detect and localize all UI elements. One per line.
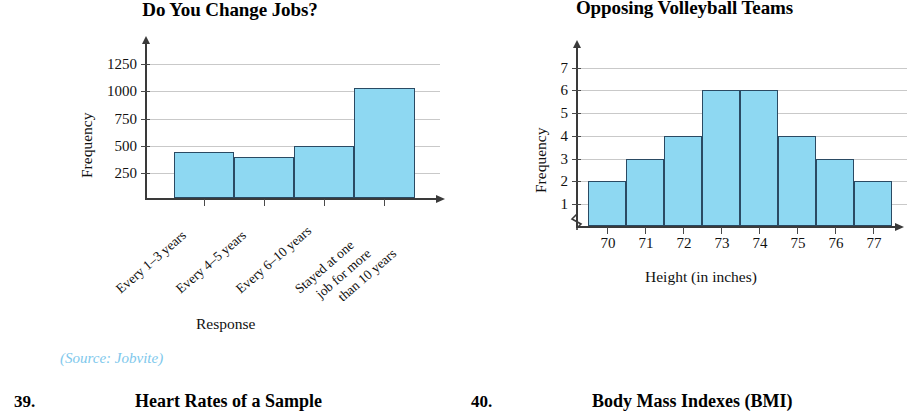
ytick-mark-5 bbox=[572, 113, 581, 114]
xtick-mark-74 bbox=[759, 227, 760, 234]
chart-do-you-change-jobs: Do You Change Jobs? 1250 1000 750 500 25… bbox=[0, 0, 460, 340]
xtick-label-70: 70 bbox=[592, 235, 624, 252]
bar-75 bbox=[778, 136, 816, 226]
ytick-mark-2 bbox=[572, 181, 581, 182]
xtick-mark-0 bbox=[204, 199, 205, 206]
source-note-jobvite: (Source: Jobvite) bbox=[60, 350, 163, 367]
bar-77 bbox=[854, 181, 892, 226]
y-axis-arrow-icon bbox=[573, 40, 581, 48]
bar-73 bbox=[702, 90, 740, 226]
x-axis-title-volleyball: Height (in inches) bbox=[645, 268, 757, 286]
y-axis-volleyball bbox=[576, 48, 578, 227]
xtick-mark-73 bbox=[721, 227, 722, 234]
xtick-mark-2 bbox=[324, 199, 325, 206]
ytick-label-1250: 1250 bbox=[91, 56, 137, 73]
xtick-label-75: 75 bbox=[782, 235, 814, 252]
y-axis-title-volleyball: Frequency bbox=[532, 128, 550, 193]
xtick-mark-77 bbox=[873, 227, 874, 234]
ytick-label-1: 1 bbox=[546, 196, 568, 213]
ytick-mark-1250 bbox=[141, 64, 150, 65]
y-axis-title-jobs: Frequency bbox=[78, 113, 96, 178]
plot-area-jobs: 1250 1000 750 500 250 Frequency Every 1–… bbox=[0, 0, 460, 340]
exercise-title-40: Body Mass Indexes (BMI) bbox=[592, 391, 793, 412]
ytick-label-250: 250 bbox=[91, 165, 137, 182]
bar-72 bbox=[664, 136, 702, 226]
ytick-mark-3 bbox=[572, 159, 581, 160]
xtick-mark-75 bbox=[797, 227, 798, 234]
ytick-mark-7 bbox=[572, 68, 581, 69]
ytick-mark-250 bbox=[141, 173, 150, 174]
textbook-figure-page: Do You Change Jobs? 1250 1000 750 500 25… bbox=[0, 0, 909, 418]
xtick-mark-1 bbox=[264, 199, 265, 206]
plot-area-volleyball: 7 6 5 4 3 2 1 Frequency bbox=[460, 0, 909, 340]
exercise-number-39: 39. bbox=[14, 392, 35, 412]
y-axis-arrow-icon bbox=[142, 36, 150, 44]
ytick-mark-750 bbox=[141, 119, 150, 120]
x-axis-volleyball bbox=[576, 226, 896, 228]
ytick-label-7: 7 bbox=[546, 60, 568, 77]
ytick-label-1000: 1000 bbox=[91, 83, 137, 100]
y-axis-jobs bbox=[145, 44, 147, 200]
bar-stayed-at-one-job bbox=[354, 88, 415, 198]
x-axis-title-jobs: Response bbox=[196, 315, 255, 333]
exercise-number-40: 40. bbox=[471, 392, 492, 412]
ytick-mark-1000 bbox=[141, 91, 150, 92]
xtick-mark-71 bbox=[645, 227, 646, 234]
chart-opposing-volleyball-teams: Heights of Players on Opposing Volleybal… bbox=[460, 0, 909, 340]
x-axis-arrow-icon bbox=[436, 195, 445, 203]
ytick-mark-6 bbox=[572, 90, 581, 91]
bar-every-1-3-years bbox=[174, 152, 234, 198]
bar-76 bbox=[816, 159, 854, 226]
xtick-mark-72 bbox=[683, 227, 684, 234]
xtick-label-72: 72 bbox=[668, 235, 700, 252]
ytick-label-750: 750 bbox=[91, 111, 137, 128]
xtick-label-74: 74 bbox=[744, 235, 776, 252]
xtick-mark-76 bbox=[835, 227, 836, 234]
ytick-mark-4 bbox=[572, 136, 581, 137]
bar-every-4-5-years bbox=[234, 157, 294, 198]
xtick-mark-3 bbox=[384, 199, 385, 206]
bar-70 bbox=[588, 181, 626, 226]
ytick-mark-500 bbox=[141, 146, 150, 147]
gridline-7 bbox=[577, 68, 907, 69]
ytick-label-6: 6 bbox=[546, 82, 568, 99]
xtick-label-76: 76 bbox=[820, 235, 852, 252]
bar-every-6-10-years bbox=[294, 146, 354, 198]
gridline-1250 bbox=[146, 64, 440, 65]
bar-74 bbox=[740, 90, 778, 226]
x-axis-jobs bbox=[145, 198, 437, 200]
xtick-label-73: 73 bbox=[706, 235, 738, 252]
exercise-title-39: Heart Rates of a Sample bbox=[135, 391, 322, 412]
bar-71 bbox=[626, 159, 664, 226]
xtick-label-77: 77 bbox=[858, 235, 890, 252]
xtick-mark-70 bbox=[607, 227, 608, 234]
ytick-mark-1 bbox=[572, 204, 581, 205]
ytick-label-500: 500 bbox=[91, 138, 137, 155]
ytick-label-5: 5 bbox=[546, 105, 568, 122]
xtick-label-71: 71 bbox=[630, 235, 662, 252]
x-axis-arrow-icon bbox=[895, 223, 904, 231]
